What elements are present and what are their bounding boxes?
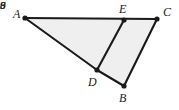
vertex-label-D: D	[88, 76, 97, 88]
length-label-BC: 8	[0, 0, 6, 11]
vertex-label-B: B	[119, 92, 126, 104]
vertex-dot-A	[22, 15, 27, 20]
vertex-dot-C	[154, 16, 159, 21]
vertex-label-C: C	[163, 6, 171, 18]
vertex-dot-E	[121, 17, 126, 22]
vertex-label-E: E	[119, 3, 126, 15]
geometry-figure: A E C D B 9 6 8	[0, 0, 179, 110]
geometry-canvas	[0, 0, 179, 110]
vertex-label-A: A	[13, 8, 20, 20]
edge-A-C	[25, 18, 157, 19]
vertex-dot-B	[121, 83, 126, 88]
vertex-dot-D	[94, 67, 99, 72]
